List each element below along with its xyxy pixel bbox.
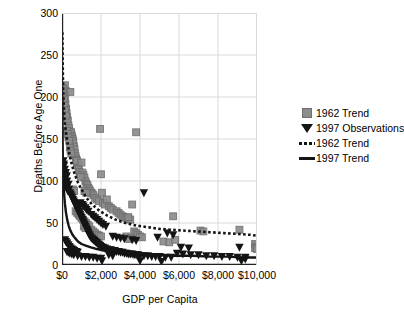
solid-line-icon <box>299 151 315 165</box>
y-tick-label: 250 <box>18 50 58 61</box>
y-tick-label: 0 <box>18 260 58 271</box>
x-tick-label: $4,000 <box>124 270 156 281</box>
legend-label: 1997 Observations <box>316 123 404 134</box>
triangle-down-marker-icon <box>299 121 315 135</box>
x-tick-label: $8,000 <box>202 270 234 281</box>
x-tick-label: $0 <box>56 270 68 281</box>
y-tick-label: 300 <box>18 8 58 19</box>
x-tick-label: $6,000 <box>163 270 195 281</box>
legend-label: 1962 Trend <box>316 108 369 119</box>
chart-legend: 1962 Trend 1997 Observations 1962 Trend … <box>299 106 403 166</box>
legend-label: 1997 Trend <box>316 153 369 164</box>
series-1962-markers <box>62 82 257 253</box>
legend-item-1962-observations: 1962 Trend <box>299 106 403 120</box>
y-tick-label: 150 <box>18 134 58 145</box>
legend-item-1997-trend: 1997 Trend <box>299 151 403 165</box>
x-tick-label: $10,000 <box>238 270 276 281</box>
y-tick-label: 100 <box>18 176 58 187</box>
x-axis-title: GDP per Capita <box>62 293 258 305</box>
trendline-1962 <box>62 32 257 235</box>
y-tick-label: 200 <box>18 92 58 103</box>
legend-label: 1962 Trend <box>316 138 369 149</box>
legend-item-1962-trend: 1962 Trend <box>299 136 403 150</box>
legend-item-1997-observations: 1997 Observations <box>299 121 403 135</box>
square-marker-icon <box>299 106 315 120</box>
y-tick-label: 50 <box>18 218 58 229</box>
plot-area <box>62 13 257 265</box>
x-axis-tick-labels: $0$2,000$4,000$6,000$8,000$10,000 <box>0 270 403 288</box>
series-1997-markers <box>62 157 249 265</box>
plot-canvas <box>62 13 257 265</box>
x-tick-label: $2,000 <box>85 270 117 281</box>
dotted-line-icon <box>299 136 315 150</box>
